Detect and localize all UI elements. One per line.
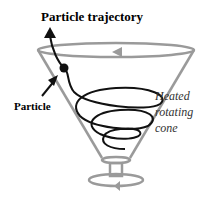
diagram: Particle trajectory Particle Heated rota… — [0, 0, 223, 202]
particle-dot-icon — [60, 64, 69, 73]
rotation-arrow-icon — [112, 47, 122, 57]
trajectory-label: Particle trajectory — [41, 9, 143, 25]
rotation-arrow-bottom-icon — [114, 181, 120, 191]
particle-label: Particle — [14, 100, 51, 112]
cone-label-line-3: cone — [155, 120, 193, 136]
cone-label: Heated rotating cone — [155, 88, 193, 136]
trajectory-arrow-icon — [44, 27, 56, 38]
cone-label-line-1: Heated — [155, 88, 193, 104]
particle-trajectory-path — [64, 68, 163, 149]
cone-label-line-2: rotating — [155, 104, 193, 120]
